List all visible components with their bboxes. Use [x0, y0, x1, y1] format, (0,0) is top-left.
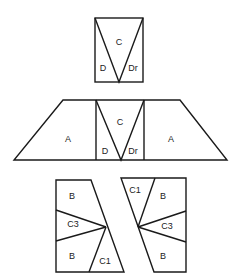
bottom-left-label-b-top: B: [69, 191, 75, 201]
bottom-right-label-c3: C3: [161, 221, 173, 231]
bottom-right-label-b-bottom: B: [160, 251, 166, 261]
top-figure: C D Dr: [95, 18, 143, 82]
middle-label-a-right: A: [168, 134, 174, 144]
middle-figure: A C D Dr A: [14, 100, 227, 160]
bottom-left-label-c3: C3: [67, 219, 79, 229]
bottom-left-outline: [56, 180, 124, 272]
top-label-c: C: [116, 37, 123, 47]
middle-label-d: D: [102, 146, 109, 156]
bottom-left-figure: B C3 B C1: [56, 180, 124, 272]
top-label-dr: Dr: [128, 63, 138, 73]
bottom-left-label-b-bottom: B: [69, 251, 75, 261]
middle-label-a-left: A: [65, 134, 71, 144]
middle-label-c: C: [117, 117, 124, 127]
dissection-diagram: C D Dr A C D Dr A B C3 B C1 C1 B C3 B: [0, 0, 233, 280]
middle-label-dr: Dr: [128, 146, 138, 156]
bottom-right-label-c1: C1: [129, 185, 141, 195]
bottom-right-label-b-top: B: [160, 191, 166, 201]
bottom-left-label-c1: C1: [99, 256, 111, 266]
top-label-d: D: [100, 63, 107, 73]
bottom-right-figure: C1 B C3 B: [121, 178, 186, 272]
middle-trapezoid: [14, 100, 227, 160]
